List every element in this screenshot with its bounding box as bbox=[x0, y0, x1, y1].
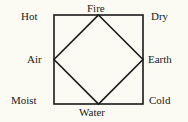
label-water: Water bbox=[79, 106, 105, 118]
label-dry: Dry bbox=[151, 10, 168, 22]
label-hot: Hot bbox=[21, 10, 38, 22]
label-moist: Moist bbox=[11, 94, 37, 106]
outer-square bbox=[54, 15, 143, 104]
inner-diamond bbox=[54, 15, 143, 104]
label-fire: Fire bbox=[87, 2, 105, 14]
label-earth: Earth bbox=[148, 53, 172, 65]
label-cold: Cold bbox=[149, 94, 170, 106]
label-air: Air bbox=[27, 53, 42, 65]
